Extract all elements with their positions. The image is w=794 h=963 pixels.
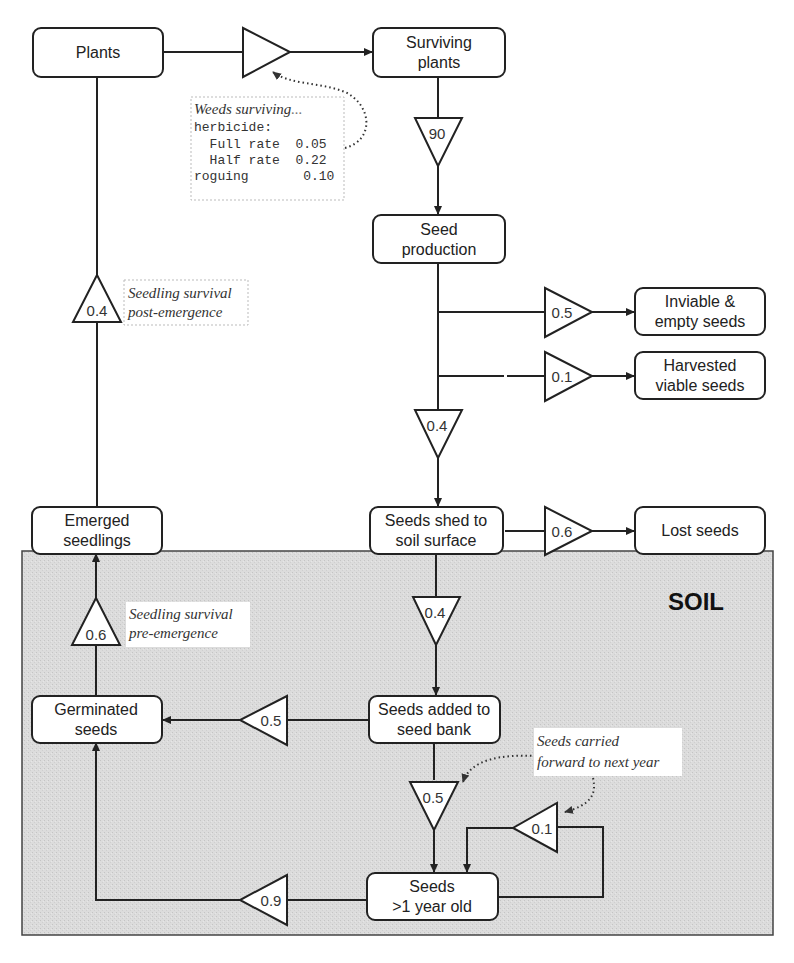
annotation-weeds-surviving: Weeds surviving... herbicide: Full rate …	[191, 97, 344, 200]
rate-triangle-inviable: 0.5	[545, 288, 592, 337]
rate-triangle-weed-survival	[243, 28, 290, 77]
svg-text:>1 year old: >1 year old	[392, 898, 472, 915]
svg-text:seeds: seeds	[75, 721, 118, 738]
svg-text:0.4: 0.4	[427, 417, 448, 434]
weed-lifecycle-diagram: SOIL Weeds surviving... herbicide: Full …	[0, 0, 794, 963]
node-inviable-seeds: Inviable & empty seeds	[635, 288, 765, 335]
soil-label: SOIL	[668, 588, 724, 615]
svg-text:Seeds shed to: Seeds shed to	[385, 512, 487, 529]
svg-text:0.5: 0.5	[423, 789, 444, 806]
svg-text:post-emergence: post-emergence	[127, 304, 223, 320]
svg-text:Surviving: Surviving	[406, 34, 472, 51]
rate-triangle-post-emergence: 0.4	[73, 275, 121, 322]
svg-text:Lost seeds: Lost seeds	[661, 522, 738, 539]
svg-text:Germinated: Germinated	[54, 701, 138, 718]
node-seed-production: Seed production	[373, 215, 505, 263]
svg-text:soil surface: soil surface	[396, 532, 477, 549]
annotation-pre-emergence: Seedling survival pre-emergence	[126, 602, 250, 647]
svg-text:Seedling survival: Seedling survival	[129, 606, 233, 622]
svg-text:Seeds added to: Seeds added to	[378, 701, 490, 718]
svg-text:Inviable &: Inviable &	[665, 293, 736, 310]
node-germinated-seeds: Germinated seeds	[32, 696, 162, 743]
rate-triangle-lost: 0.6	[545, 507, 592, 555]
svg-text:Weeds surviving...: Weeds surviving...	[194, 101, 303, 117]
svg-text:0.6: 0.6	[86, 626, 107, 643]
svg-text:Seeds carried: Seeds carried	[537, 733, 620, 749]
svg-text:Full rate 0.05: Full rate 0.05	[194, 137, 327, 152]
node-lost-seeds: Lost seeds	[635, 507, 765, 554]
rate-triangle-shed: 0.4	[415, 410, 462, 458]
svg-text:0.5: 0.5	[552, 304, 573, 321]
node-seeds-shed: Seeds shed to soil surface	[370, 507, 503, 554]
svg-text:herbicide:: herbicide:	[194, 120, 272, 135]
node-harvested-seeds: Harvested viable seeds	[635, 352, 765, 399]
rate-triangle-harvested: 0.1	[545, 352, 592, 401]
svg-text:seed bank: seed bank	[397, 721, 472, 738]
svg-text:production: production	[402, 241, 477, 258]
node-surviving-plants: Surviving plants	[373, 28, 505, 77]
svg-text:0.1: 0.1	[552, 368, 573, 385]
svg-text:0.6: 0.6	[552, 523, 573, 540]
svg-text:empty seeds: empty seeds	[655, 313, 746, 330]
svg-text:0.1: 0.1	[532, 820, 553, 837]
node-seeds-added: Seeds added to seed bank	[369, 696, 500, 743]
annotation-post-emergence: Seedling survival post-emergence	[124, 280, 248, 325]
svg-text:0.4: 0.4	[87, 302, 108, 319]
svg-text:viable seeds: viable seeds	[656, 377, 745, 394]
svg-text:pre-emergence: pre-emergence	[128, 625, 218, 641]
svg-text:plants: plants	[418, 54, 461, 71]
node-seeds-old: Seeds >1 year old	[367, 873, 498, 920]
node-emerged-seedlings: Emerged seedlings	[32, 507, 162, 554]
svg-text:Half rate 0.22: Half rate 0.22	[194, 153, 327, 168]
svg-text:Harvested: Harvested	[664, 357, 737, 374]
rate-triangle-seed-production: 90	[415, 118, 462, 166]
svg-text:Seeds: Seeds	[409, 878, 454, 895]
annotation-carried-forward: Seeds carried forward to next year	[534, 728, 682, 776]
svg-text:Seed: Seed	[420, 221, 457, 238]
svg-text:seedlings: seedlings	[63, 532, 131, 549]
svg-text:0.4: 0.4	[425, 604, 446, 621]
svg-text:0.9: 0.9	[261, 892, 282, 909]
svg-text:Seedling survival: Seedling survival	[128, 285, 232, 301]
svg-text:0.5: 0.5	[261, 712, 282, 729]
svg-text:forward to next year: forward to next year	[537, 754, 660, 770]
node-plants: Plants	[33, 28, 163, 77]
svg-text:Emerged: Emerged	[65, 512, 130, 529]
svg-text:90: 90	[429, 125, 446, 142]
svg-text:Plants: Plants	[76, 44, 120, 61]
svg-text:roguing 0.10: roguing 0.10	[194, 169, 334, 184]
